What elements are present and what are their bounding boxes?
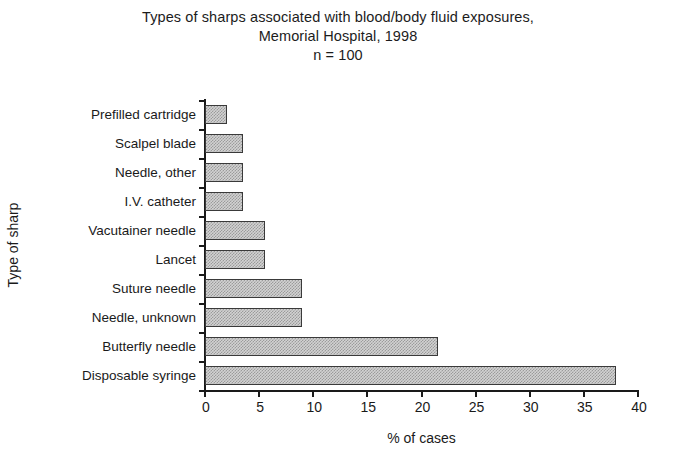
bar	[205, 250, 265, 269]
bar-row: I.V. catheter	[205, 187, 638, 216]
x-axis-tick-label: 20	[403, 399, 443, 415]
y-axis-tick-label: Butterfly needle	[6, 332, 196, 361]
y-axis-tick	[199, 274, 205, 276]
bar	[205, 279, 302, 298]
bar	[205, 192, 243, 211]
x-axis-tick	[312, 390, 314, 397]
x-axis-tick	[366, 390, 368, 397]
bar	[205, 163, 243, 182]
x-axis-tick	[529, 390, 531, 397]
plot-area: Prefilled cartridgeScalpel bladeNeedle, …	[205, 100, 638, 390]
bar	[205, 308, 302, 327]
y-axis-tick-label: Scalpel blade	[6, 129, 196, 158]
bar-row: Vacutainer needle	[205, 216, 638, 245]
chart-sample-size: n = 100	[0, 46, 676, 65]
chart-title-line-2: Memorial Hospital, 1998	[0, 27, 676, 46]
x-axis-tick	[637, 390, 639, 397]
y-axis-tick-label: Vacutainer needle	[6, 216, 196, 245]
y-axis-tick-label: Needle, other	[6, 158, 196, 187]
y-axis-tick-label: Needle, unknown	[6, 303, 196, 332]
y-axis-tick	[199, 158, 205, 160]
x-axis-tick-label: 5	[240, 399, 280, 415]
x-axis-tick-label: 40	[619, 399, 659, 415]
bar-row: Lancet	[205, 245, 638, 274]
x-axis-tick-label: 10	[294, 399, 334, 415]
x-axis-tick-label: 35	[565, 399, 605, 415]
bar-row: Needle, other	[205, 158, 638, 187]
bar	[205, 366, 616, 385]
y-axis-tick	[199, 361, 205, 363]
x-axis-title: % of cases	[205, 430, 638, 446]
bar-row: Disposable syringe	[205, 361, 638, 390]
bar-row: Scalpel blade	[205, 129, 638, 158]
y-axis-tick	[199, 245, 205, 247]
x-axis-tick	[204, 390, 206, 397]
x-axis-tick	[421, 390, 423, 397]
bar	[205, 221, 265, 240]
y-axis-tick-label: Disposable syringe	[6, 361, 196, 390]
y-axis-tick-label: Lancet	[6, 245, 196, 274]
bar-row: Suture needle	[205, 274, 638, 303]
bar	[205, 105, 227, 124]
bar-row: Prefilled cartridge	[205, 100, 638, 129]
x-axis-tick	[583, 390, 585, 397]
y-axis-tick	[199, 100, 205, 102]
bar-row: Needle, unknown	[205, 303, 638, 332]
chart-title-block: Types of sharps associated with blood/bo…	[0, 8, 676, 65]
bar	[205, 134, 243, 153]
x-axis-tick-label: 30	[511, 399, 551, 415]
y-axis-tick	[199, 303, 205, 305]
y-axis-tick	[199, 129, 205, 131]
x-axis-tick-label: 25	[457, 399, 497, 415]
y-axis-tick	[199, 332, 205, 334]
x-axis-tick-label: 15	[348, 399, 388, 415]
y-axis-title: Type of sharp	[5, 175, 21, 315]
y-axis-tick	[199, 187, 205, 189]
x-axis-tick-label: 0	[186, 399, 226, 415]
chart-title-line-1: Types of sharps associated with blood/bo…	[0, 8, 676, 27]
y-axis-tick-label: I.V. catheter	[6, 187, 196, 216]
y-axis-tick-label: Suture needle	[6, 274, 196, 303]
y-axis-tick	[199, 216, 205, 218]
x-axis-tick	[258, 390, 260, 397]
y-axis-tick-label: Prefilled cartridge	[6, 100, 196, 129]
x-axis-tick	[475, 390, 477, 397]
bar-row: Butterfly needle	[205, 332, 638, 361]
bar	[205, 337, 438, 356]
